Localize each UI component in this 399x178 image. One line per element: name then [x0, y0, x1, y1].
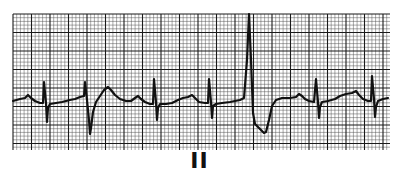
ecg-grid-minor	[13, 14, 390, 150]
lead-label: II	[0, 148, 399, 173]
